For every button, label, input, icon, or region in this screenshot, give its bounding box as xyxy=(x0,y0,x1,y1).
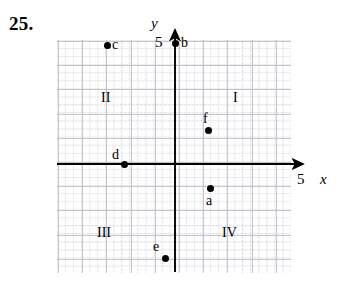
data-point-label-e: e xyxy=(153,240,159,254)
y-axis-tick-5: 5 xyxy=(155,35,163,50)
data-point-label-f: f xyxy=(203,112,208,126)
quadrant-label-I: I xyxy=(233,91,238,105)
quadrant-label-III: III xyxy=(97,226,111,240)
x-axis-tick-5: 5 xyxy=(297,172,305,187)
data-point-e xyxy=(162,255,169,262)
data-point-label-d: d xyxy=(112,148,119,162)
data-point-c xyxy=(104,42,111,49)
data-point-d xyxy=(121,161,128,168)
data-point-label-c: c xyxy=(112,38,118,52)
quadrant-label-II: II xyxy=(101,91,110,105)
data-point-a xyxy=(207,185,214,192)
quadrant-label-IV: IV xyxy=(222,226,237,240)
coordinate-plane-figure: 25. y x 5 5 I II III IV a b c d e f xyxy=(0,0,344,282)
y-axis-label: y xyxy=(151,16,158,31)
data-point-label-b: b xyxy=(181,36,188,50)
data-point-f xyxy=(205,127,212,134)
data-point-b xyxy=(172,40,179,47)
data-point-label-a: a xyxy=(206,194,212,208)
x-axis-label: x xyxy=(320,172,327,187)
